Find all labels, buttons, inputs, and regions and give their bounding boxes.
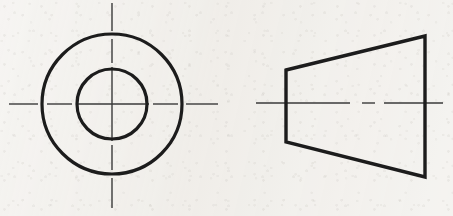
- technical-drawing-sheet: [0, 0, 453, 216]
- front-view: [9, 3, 218, 208]
- frustum-profile-outline: [286, 36, 425, 177]
- side-view: [256, 36, 443, 177]
- drawing-canvas: [0, 0, 453, 216]
